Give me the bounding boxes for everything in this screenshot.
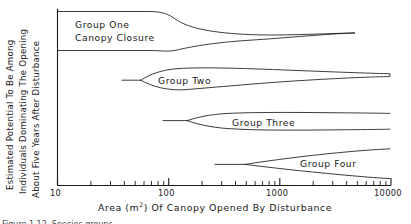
species-group-chart: Estimated Potential To Be Among Individu… [0,0,411,224]
group-one-label-line-1: Group One [75,19,130,30]
figure-caption-fragment: Figure 1.12. Species groups [2,220,202,224]
x-axis-title-pre: Area (m [98,202,139,213]
group-three-label: Group Three [232,117,295,128]
y-axis-title-line-1: Estimated Potential To Be Among [5,40,15,190]
x-tick-label-10: 10 [50,188,61,198]
x-axis-tick-labels: 10 100 1000 10000 [50,188,402,198]
x-axis-ticks [58,178,392,186]
series-label-group-one: Group One Canopy Closure [75,19,155,43]
x-tick-label-100: 100 [158,188,175,198]
x-axis-title-post: ) Of Canopy Opened By Disturbance [144,202,332,213]
y-axis-title: Estimated Potential To Be Among Individu… [5,29,41,198]
svg-text:Area (m2) Of Canopy Opened: Area (m2) Of Canopy Opened By Disturbanc… [98,201,332,213]
y-axis-title-line-3: About Five Years After Disturbance [31,41,41,198]
x-tick-label-10000: 10000 [374,188,402,198]
series-label-group-four: Group Four [300,158,357,169]
x-tick-label-1000: 1000 [266,188,288,198]
series-label-group-three: Group Three [232,117,295,128]
series-label-group-two: Group Two [158,75,211,86]
x-axis-title: Area (m2) Of Canopy Opened By Disturbanc… [98,201,332,213]
group-four-label: Group Four [300,158,357,169]
group-one-label-line-2: Canopy Closure [75,32,155,43]
group-two-label: Group Two [158,75,211,86]
y-axis-title-line-2: Individuals Dominating The Opening [18,29,28,194]
